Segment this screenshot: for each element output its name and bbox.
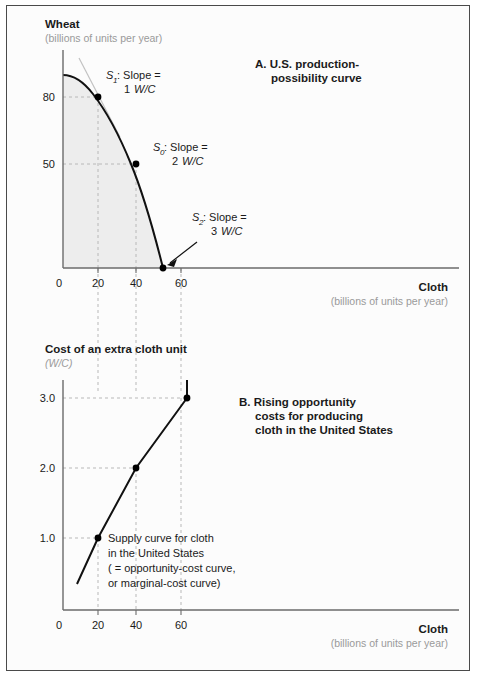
panel-a-label-s2-value: 3 bbox=[211, 225, 217, 237]
panel-a-label-s0: S 0 : Slope = 2 W/C bbox=[153, 141, 208, 167]
panel-a-label-s1: S 1 : Slope = 1 W/C bbox=[106, 69, 161, 95]
panel-b-y-tick-2: 2.0 bbox=[40, 462, 55, 474]
panel-a-y-axis-sublabel: (billions of units per year) bbox=[45, 32, 162, 44]
panel-a-label-s1-value: 1 bbox=[124, 83, 130, 95]
panel-a-shaded-region bbox=[63, 75, 163, 268]
panel-a-x-axis-sublabel: (billions of units per year) bbox=[331, 295, 448, 307]
panel-a-x-ticks bbox=[98, 268, 181, 273]
panel-a-y-axis-label: Wheat bbox=[45, 18, 80, 30]
panel-b: Cost of an extra cloth unit (W/C) bbox=[40, 343, 459, 649]
panel-a-x-axis-label: Cloth bbox=[419, 281, 448, 293]
panel-b-x-axis-label: Cloth bbox=[419, 623, 448, 635]
panel-b-point-2 bbox=[133, 465, 140, 472]
panel-a-x-tick-60: 60 bbox=[175, 277, 187, 289]
panel-b-x-tick-20: 20 bbox=[92, 619, 104, 631]
panel-b-annotation-line1: Supply curve for cloth bbox=[108, 532, 214, 544]
panel-b-annotation-line4: or marginal-cost curve) bbox=[108, 577, 220, 589]
panel-a-label-s0-unit: W/C bbox=[182, 155, 203, 167]
panel-a-point-s0 bbox=[133, 161, 140, 168]
panel-b-point-3 bbox=[184, 395, 191, 402]
panel-a-x-tick-20: 20 bbox=[92, 277, 104, 289]
panel-a-label-s2-unit: W/C bbox=[221, 225, 242, 237]
panel-b-y-axis-label: Cost of an extra cloth unit bbox=[45, 343, 187, 355]
panel-b-title-line3: cloth in the United States bbox=[255, 424, 393, 436]
panel-b-annotation-line2: in the United States bbox=[108, 547, 205, 559]
panel-a-label-s0-text: : Slope = bbox=[164, 141, 208, 153]
panel-b-title-line1: B. Rising opportunity bbox=[239, 396, 357, 408]
panel-a-title-line2: possibility curve bbox=[271, 72, 362, 84]
panel-a-label-s1-unit: W/C bbox=[134, 83, 155, 95]
panel-a-label-s0-value: 2 bbox=[172, 155, 178, 167]
panel-a-x-tick-0: 0 bbox=[56, 277, 62, 289]
panel-a-label-s2-text: : Slope = bbox=[203, 211, 247, 223]
economics-figure-svg: Wheat (billions of units per year) bbox=[7, 6, 469, 670]
panel-b-y-axis-sublabel: (W/C) bbox=[45, 357, 72, 369]
panel-a-point-s1 bbox=[95, 94, 102, 101]
panel-a-y-tick-50: 50 bbox=[43, 158, 55, 170]
panel-b-x-tick-0: 0 bbox=[56, 619, 62, 631]
figure-frame: Wheat (billions of units per year) bbox=[6, 5, 470, 671]
panel-a: Wheat (billions of units per year) bbox=[43, 18, 459, 307]
panel-b-y-tick-3: 3.0 bbox=[40, 392, 55, 404]
panel-b-point-1 bbox=[95, 535, 102, 542]
panel-b-x-tick-60: 60 bbox=[175, 619, 187, 631]
panel-b-annotation-line3: ( = opportunity-cost curve, bbox=[108, 562, 235, 574]
panel-a-title-line1: A. U.S. production- bbox=[255, 58, 359, 70]
panel-a-s2-arrow-line bbox=[170, 242, 197, 263]
panel-b-annotation: Supply curve for cloth in the United Sta… bbox=[108, 532, 235, 589]
panel-a-point-s2 bbox=[160, 265, 167, 272]
panel-b-x-axis-sublabel: (billions of units per year) bbox=[331, 637, 448, 649]
panel-a-label-s2: S 2 : Slope = 3 W/C bbox=[167, 211, 247, 267]
panel-a-label-s1-text: : Slope = bbox=[117, 69, 161, 81]
panel-b-y-tick-1: 1.0 bbox=[40, 532, 55, 544]
panel-b-x-tick-40: 40 bbox=[130, 619, 142, 631]
panel-b-title-line2: costs for producing bbox=[255, 410, 363, 422]
panel-a-s2-arrow-head bbox=[167, 259, 177, 267]
panel-a-y-tick-80: 80 bbox=[43, 91, 55, 103]
panel-b-x-ticks bbox=[98, 610, 181, 615]
panel-a-x-tick-40: 40 bbox=[130, 277, 142, 289]
